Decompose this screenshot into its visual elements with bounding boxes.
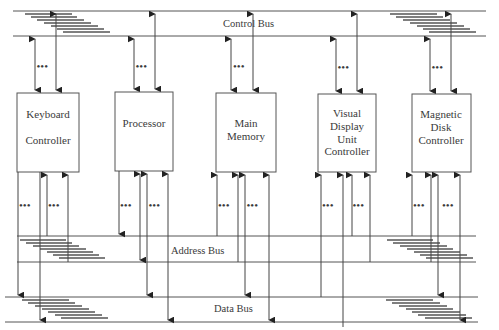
- ellipsis: •••: [48, 199, 60, 211]
- address-bus-hatch-left: [20, 240, 105, 258]
- ellipsis: •••: [37, 60, 49, 72]
- data-bus-hatch-right: [386, 300, 472, 318]
- ellipsis: •••: [442, 199, 454, 211]
- data-bus-hatch-left: [22, 300, 108, 318]
- svg-text:Disk: Disk: [431, 121, 452, 133]
- svg-text:Processor: Processor: [123, 117, 166, 129]
- ellipsis: •••: [149, 199, 161, 211]
- svg-text:Memory: Memory: [227, 130, 265, 142]
- control-ellipses: ••• ••• ••• ••• •••: [37, 60, 444, 73]
- ellipsis: •••: [233, 60, 245, 72]
- ellipsis: •••: [322, 199, 334, 211]
- data-bus: Data Bus: [5, 297, 478, 322]
- svg-text:Controller: Controller: [324, 145, 370, 157]
- ellipsis: •••: [413, 199, 425, 211]
- svg-text:Display: Display: [330, 120, 365, 132]
- ellipsis: •••: [136, 60, 148, 72]
- data-bus-label: Data Bus: [214, 303, 253, 314]
- ellipsis: •••: [353, 199, 365, 211]
- ellipsis: •••: [432, 61, 444, 73]
- ellipsis: •••: [247, 199, 259, 211]
- keyboard-controller-block: Keyboard Controller: [17, 93, 79, 172]
- visual-display-unit-controller-block: Visual Display Unit Controller: [318, 94, 376, 172]
- address-bus-label: Address Bus: [171, 245, 224, 256]
- lower-ellipses: ••• ••• ••• ••• ••• ••• ••• ••• ••• •••: [19, 199, 454, 211]
- computer-bus-architecture-diagram: Control Bus Address Bus: [0, 0, 499, 330]
- control-bus-label: Control Bus: [223, 18, 274, 29]
- control-bus: Control Bus: [13, 11, 486, 36]
- ellipsis: •••: [19, 199, 31, 211]
- control-bus-hatch-right: [390, 14, 476, 32]
- magnetic-disk-controller-block: Magnetic Disk Controller: [412, 94, 471, 172]
- ellipsis: •••: [338, 61, 350, 73]
- svg-text:Controller: Controller: [25, 134, 71, 146]
- svg-text:Main: Main: [234, 117, 258, 129]
- svg-text:Keyboard: Keyboard: [26, 108, 70, 120]
- svg-text:Magnetic: Magnetic: [420, 108, 462, 120]
- ellipsis: •••: [218, 199, 230, 211]
- main-memory-block: Main Memory: [216, 93, 276, 172]
- svg-text:Visual: Visual: [333, 107, 361, 119]
- svg-text:Unit: Unit: [337, 133, 357, 145]
- svg-text:Controller: Controller: [418, 134, 464, 146]
- ellipsis: •••: [120, 199, 132, 211]
- processor-block: Processor: [115, 92, 173, 171]
- address-bus: Address Bus: [17, 236, 476, 262]
- control-bus-hatch-left: [25, 14, 110, 32]
